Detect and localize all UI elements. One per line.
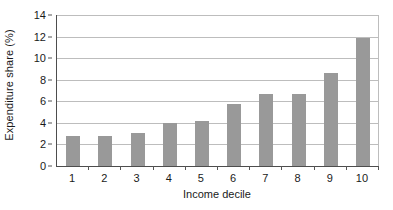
bar-decile-3 (131, 133, 145, 166)
x-tick-mark-4 (185, 166, 186, 170)
x-axis-tick-labels: 12345678910 (56, 166, 379, 190)
y-tick-mark-12 (48, 36, 52, 37)
y-tick-mark-0 (48, 166, 52, 167)
x-tick-label-9: 9 (327, 172, 333, 184)
x-tick-label-8: 8 (294, 172, 300, 184)
bar-decile-10 (356, 38, 370, 166)
y-axis-title-text: Expenditure share (%) (3, 29, 15, 141)
bar-decile-1 (66, 136, 80, 166)
y-tick-label-0: 0 (40, 160, 46, 172)
y-tick-label-10: 10 (34, 52, 46, 64)
x-tick-label-4: 4 (166, 172, 172, 184)
x-tick-mark-5 (217, 166, 218, 170)
x-tick-label-6: 6 (230, 172, 236, 184)
bar-decile-9 (324, 73, 338, 166)
plot-area (56, 15, 379, 167)
x-tick-mark-6 (249, 166, 250, 170)
x-tick-label-5: 5 (198, 172, 204, 184)
x-tick-mark-9 (346, 166, 347, 170)
x-tick-mark-10 (378, 166, 379, 170)
x-tick-label-1: 1 (69, 172, 75, 184)
y-tick-mark-2 (48, 144, 52, 145)
y-tick-mark-8 (48, 79, 52, 80)
bar-decile-6 (227, 104, 241, 166)
x-tick-mark-3 (153, 166, 154, 170)
bar-decile-4 (163, 123, 177, 166)
y-tick-mark-10 (48, 58, 52, 59)
x-tick-label-2: 2 (101, 172, 107, 184)
y-tick-label-12: 12 (34, 31, 46, 43)
bar-decile-7 (259, 94, 273, 166)
x-tick-mark-2 (120, 166, 121, 170)
y-tick-label-6: 6 (40, 95, 46, 107)
y-tick-label-8: 8 (40, 74, 46, 86)
x-tick-label-10: 10 (356, 172, 368, 184)
x-tick-label-7: 7 (262, 172, 268, 184)
bar-decile-2 (98, 136, 112, 166)
y-axis-tick-labels: 02468101214 (18, 9, 52, 171)
x-tick-mark-8 (314, 166, 315, 170)
y-tick-label-14: 14 (34, 9, 46, 21)
y-tick-mark-14 (48, 15, 52, 16)
bar-decile-8 (292, 94, 306, 166)
y-axis-title: Expenditure share (%) (0, 0, 18, 170)
y-tick-label-2: 2 (40, 138, 46, 150)
x-tick-mark-1 (88, 166, 89, 170)
bar-chart-figure: Expenditure share (%) 02468101214 123456… (0, 0, 393, 210)
y-tick-mark-4 (48, 122, 52, 123)
x-tick-label-3: 3 (133, 172, 139, 184)
y-tick-label-4: 4 (40, 117, 46, 129)
x-tick-mark-7 (281, 166, 282, 170)
x-axis-title: Income decile (56, 188, 378, 200)
bars-layer (57, 15, 379, 166)
y-tick-mark-6 (48, 101, 52, 102)
bar-decile-5 (195, 121, 209, 166)
